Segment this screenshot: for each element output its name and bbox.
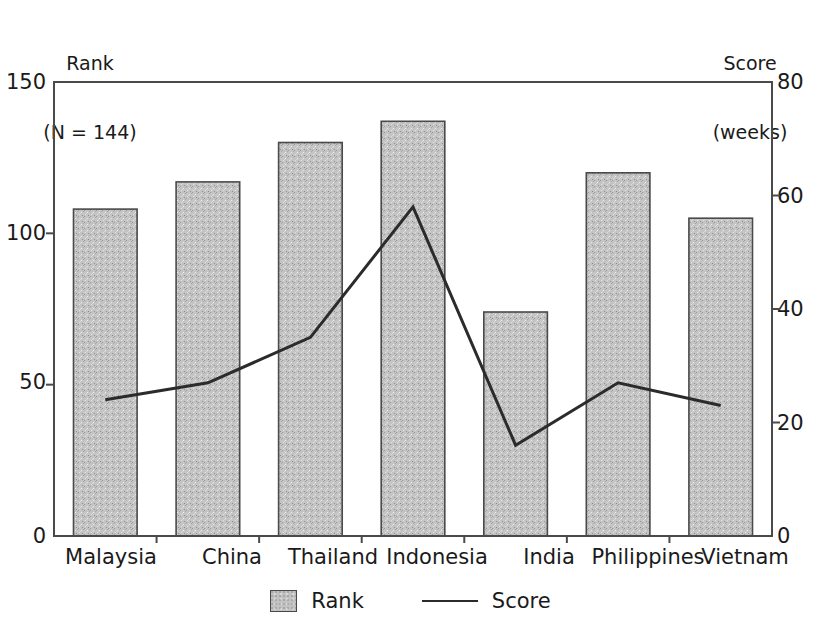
chart-legend: Rank Score <box>0 590 821 612</box>
x-axis-label-vietnam: Vietnam <box>665 545 821 569</box>
bar-malaysia <box>74 209 138 536</box>
bar-thailand <box>279 143 343 537</box>
chart-container: Rank (N = 144) Score (weeks) 150 100 50 … <box>0 0 821 627</box>
legend-entry-rank: Rank <box>270 590 363 612</box>
legend-label-score: Score <box>492 591 551 612</box>
legend-label-rank: Rank <box>311 591 363 612</box>
bars-group <box>74 121 753 536</box>
bar-vietnam <box>689 218 753 536</box>
bar-india <box>484 312 548 536</box>
legend-line-swatch-icon <box>422 600 478 602</box>
legend-entry-score: Score <box>422 591 551 612</box>
bar-philippines <box>586 173 650 536</box>
legend-bar-swatch-icon <box>270 590 297 612</box>
plot-area <box>0 0 821 627</box>
bar-indonesia <box>381 121 445 536</box>
bar-china <box>176 182 240 536</box>
